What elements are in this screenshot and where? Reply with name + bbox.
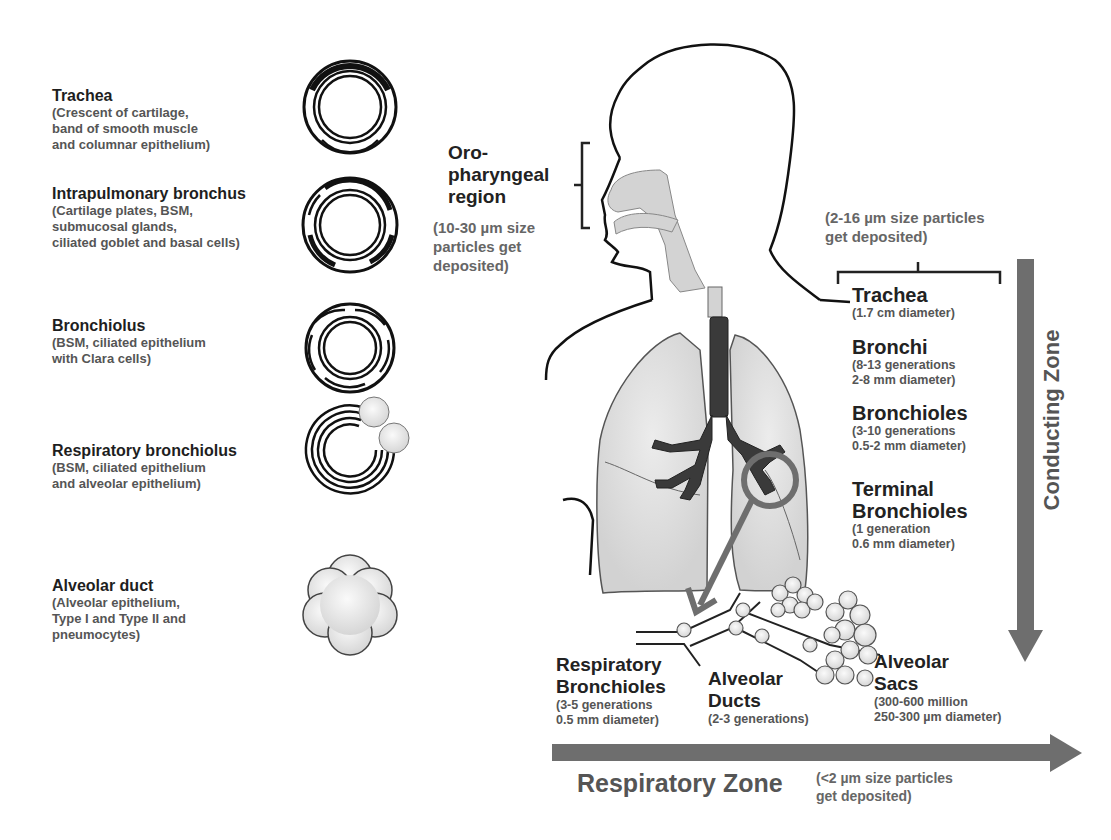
left-item-bronchiolus: Bronchiolus (BSM, ciliated epithelium wi… [52,316,312,367]
note-line: (<2 µm size particles [816,769,953,787]
oropharyngeal-label: Oro- pharyngeal region [448,142,549,208]
note-line: deposited) [433,256,535,275]
respiratory-item-alveolar-ducts: Alveolar Ducts (2-3 generations) [708,668,809,727]
trachea-cross-section-icon [304,61,396,153]
conducting-item-desc: (3-10 generations [852,424,968,439]
oropharyngeal-title-line: region [448,186,549,208]
conducting-item-desc: 0.6 mm diameter) [852,537,968,552]
left-item-title: Trachea [52,86,312,105]
left-item-title: Respiratory bronchiolus [52,441,312,460]
respiratory-item-title: Alveolar [708,668,809,690]
oropharyngeal-title-line: Oro- [448,142,549,164]
bronchiolus-cross-section-icon [306,304,394,392]
left-item-title: Bronchiolus [52,316,312,335]
left-item-trachea: Trachea (Crescent of cartilage, band of … [52,86,312,153]
respiratory-zone-arrow [552,734,1082,772]
left-item-desc-line: and alveolar epithelium) [52,476,312,492]
note-line: (10-30 µm size [433,218,535,237]
left-item-intrapulmonary-bronchus: Intrapulmonary bronchus (Cartilage plate… [52,184,322,251]
left-item-desc-line: (BSM, ciliated epithelium [52,335,312,351]
conducting-item-title: Bronchioles [852,500,968,522]
conducting-item-desc: (1.7 cm diameter) [852,306,955,321]
oropharyngeal-bracket [574,143,590,228]
respiratory-bronchiolus-cross-section-icon [306,397,409,493]
respiratory-note: (<2 µm size particles get deposited) [816,769,953,805]
respiratory-item-respiratory-bronchioles: Respiratory Bronchioles (3-5 generations… [556,654,666,728]
upper-airway [608,170,705,292]
respiratory-item-title: Sacs [874,673,1001,695]
left-item-desc-line: band of smooth muscle [52,121,312,137]
left-item-alveolar-duct: Alveolar duct (Alveolar epithelium, Type… [52,576,312,643]
conducting-item-trachea: Trachea (1.7 cm diameter) [852,284,955,321]
oropharyngeal-title-line: pharyngeal [448,164,549,186]
left-item-desc-line: and columnar epithelium) [52,137,312,153]
conducting-item-desc: 2-8 mm diameter) [852,373,956,388]
alveolar-duct-icon [303,555,397,655]
conducting-item-bronchioles: Bronchioles (3-10 generations 0.5-2 mm d… [852,402,968,454]
conducting-item-title: Terminal [852,478,968,500]
left-item-desc-line: (Alveolar epithelium, [52,595,312,611]
left-item-desc-line: (BSM, ciliated epithelium [52,460,312,476]
respiratory-item-title: Respiratory [556,654,666,676]
conducting-item-title: Bronchi [852,336,956,358]
conducting-item-title: Trachea [852,284,955,306]
respiratory-item-title: Bronchioles [556,676,666,698]
note-line: get deposited) [816,787,953,805]
left-item-desc-line: ciliated goblet and basal cells) [52,235,322,251]
respiratory-item-desc: (2-3 generations) [708,712,809,727]
conducting-item-bronchi: Bronchi (8-13 generations 2-8 mm diamete… [852,336,956,388]
oropharyngeal-note: (10-30 µm size particles get deposited) [433,218,535,275]
conducting-item-desc: (8-13 generations [852,358,956,373]
conducting-item-terminal-bronchioles: Terminal Bronchioles (1 generation 0.6 m… [852,478,968,552]
conducting-note: (2-16 µm size particles get deposited) [825,208,985,246]
left-item-desc-line: with Clara cells) [52,351,312,367]
left-item-desc-line: pneumocytes) [52,627,312,643]
left-item-title: Alveolar duct [52,576,312,595]
conducting-zone-arrow [1008,259,1043,662]
left-item-title: Intrapulmonary bronchus [52,184,322,203]
left-item-respiratory-bronchiolus: Respiratory bronchiolus (BSM, ciliated e… [52,441,312,492]
left-item-desc-line: (Crescent of cartilage, [52,105,312,121]
conducting-zone-label: Conducting Zone [1039,330,1065,511]
respiratory-item-title: Alveolar [874,651,1001,673]
conducting-bracket [838,262,1000,284]
respiratory-item-desc: 0.5 mm diameter) [556,713,666,728]
conducting-item-title: Bronchioles [852,402,968,424]
note-line: (2-16 µm size particles [825,208,985,227]
respiratory-item-alveolar-sacs: Alveolar Sacs (300-600 million 250-300 µ… [874,651,1001,725]
conducting-item-desc: 0.5-2 mm diameter) [852,439,968,454]
note-line: particles get [433,237,535,256]
conducting-item-desc: (1 generation [852,522,968,537]
respiratory-item-desc: (300-600 million [874,695,1001,710]
respiratory-item-desc: (3-5 generations [556,698,666,713]
respiratory-item-desc: 250-300 µm diameter) [874,710,1001,725]
respiratory-zone-label: Respiratory Zone [577,769,783,798]
note-line: get deposited) [825,227,985,246]
left-item-desc-line: submucosal glands, [52,219,322,235]
left-item-desc-line: Type I and Type II and [52,611,312,627]
respiratory-item-title: Ducts [708,690,809,712]
left-item-desc-line: (Cartilage plates, BSM, [52,203,322,219]
